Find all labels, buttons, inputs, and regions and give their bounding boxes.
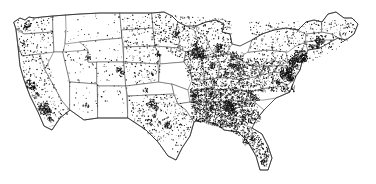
us-dot-density-map [0, 0, 376, 184]
map-canvas [0, 0, 376, 184]
